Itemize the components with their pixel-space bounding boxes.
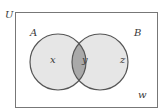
outside-label: w <box>138 90 147 100</box>
intersection-label: y <box>82 55 88 65</box>
region-x-label: x <box>50 55 56 65</box>
set-b-label: B <box>134 28 141 38</box>
region-z-label: z <box>120 55 125 65</box>
set-a-label: A <box>30 28 37 38</box>
universe-label: U <box>5 10 13 20</box>
